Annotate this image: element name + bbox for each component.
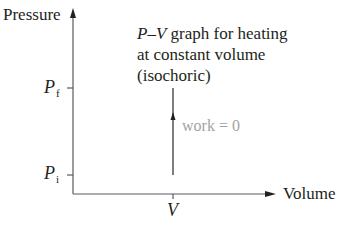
title-line-3: (isochoric) <box>137 65 288 86</box>
p-final-subscript: f <box>56 87 60 99</box>
x-axis-label: Volume <box>283 185 336 202</box>
pv-diagram: Pressure Volume Pf Pi V P–V graph for he… <box>0 0 343 225</box>
p-initial-symbol: P <box>44 163 55 183</box>
y-axis <box>70 8 76 194</box>
y-axis-label: Pressure <box>3 6 61 23</box>
p-initial-subscript: i <box>56 173 59 185</box>
work-annotation: work = 0 <box>182 118 240 134</box>
p-final-symbol: P <box>44 77 55 97</box>
y-axis-arrowhead-icon <box>70 8 76 18</box>
diagram-title: P–V graph for heating at constant volume… <box>137 23 288 86</box>
x-axis <box>73 191 276 197</box>
p-final-label: Pf <box>44 78 60 99</box>
x-axis-arrowhead-icon <box>265 191 276 197</box>
isochoric-process-line <box>171 88 176 175</box>
p-initial-label: Pi <box>44 164 59 185</box>
title-line-2: at constant volume <box>137 44 288 65</box>
volume-tick-label: V <box>167 201 178 219</box>
title-line-1-text: graph for heating <box>166 24 287 43</box>
process-direction-arrow-icon <box>171 112 176 120</box>
title-line-1: P–V graph for heating <box>137 23 288 44</box>
title-pv-symbol: P–V <box>137 24 166 43</box>
